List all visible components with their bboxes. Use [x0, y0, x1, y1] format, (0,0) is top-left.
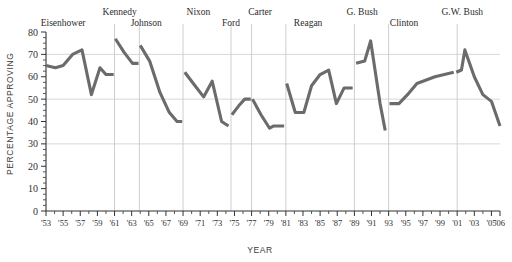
x-tick-label-67: '67 — [161, 218, 171, 228]
y-axis-title: PERCENTAGE APPROVING — [5, 53, 15, 175]
x-tick-label-53: '53 — [41, 218, 51, 228]
x-tick-label-69: '69 — [178, 218, 188, 228]
admin-label-johnson: Johnson — [131, 18, 162, 28]
x-tick-label-85: '85 — [315, 218, 325, 228]
y-tick-label-40: 40 — [28, 116, 38, 127]
chart-canvas: 01020304050607080 '53'55'57'59'61'63'65'… — [0, 0, 512, 262]
y-tick-label-30: 30 — [28, 138, 38, 149]
series-line-ford — [232, 99, 251, 115]
admin-label-kennedy: Kennedy — [103, 7, 138, 17]
series-line-eisenhower — [46, 50, 114, 95]
y-tick-label-10: 10 — [28, 183, 38, 194]
y-tick-label-60: 60 — [28, 71, 38, 82]
x-tick-label-89: '89 — [349, 218, 359, 228]
x-tick-label-87: '87 — [332, 218, 342, 228]
admin-label-clinton: Clinton — [390, 18, 419, 28]
admin-label-reagan: Reagan — [294, 18, 323, 28]
x-tick-label-03: '03 — [469, 218, 479, 228]
x-tick-label-57: '57 — [75, 218, 85, 228]
series-line-carter — [252, 99, 284, 128]
series-line-johnson — [140, 45, 182, 121]
x-tick-label-77: '77 — [247, 218, 257, 228]
x-tick-label-55: '55 — [58, 218, 68, 228]
x-tick-label-65: '65 — [144, 218, 154, 228]
x-tick-label-59: '59 — [92, 218, 102, 228]
y-tick-labels-layer: 01020304050607080 — [28, 27, 46, 217]
x-tick-label-73: '73 — [212, 218, 222, 228]
x-tick-label-93: 93 — [384, 218, 393, 228]
x-tick-label-81: '81 — [281, 218, 291, 228]
admin-label-ford: Ford — [222, 18, 240, 28]
y-tick-label-0: 0 — [33, 206, 38, 217]
administration-labels-layer: EisenhowerKennedyJohnsonNixonFordCarterR… — [41, 7, 484, 28]
y-tick-label-70: 70 — [28, 49, 38, 60]
x-tick-label-97: '97 — [418, 218, 428, 228]
y-tick-label-20: 20 — [28, 161, 38, 172]
admin-label-g-w-bush: G.W. Bush — [441, 7, 483, 17]
x-tick-label-71: '71 — [195, 218, 205, 228]
y-tick-label-80: 80 — [28, 27, 38, 38]
admin-label-eisenhower: Eisenhower — [41, 18, 87, 28]
x-tick-label-06: '06 — [495, 218, 505, 228]
y-tick-label-50: 50 — [28, 94, 38, 105]
presidential-approval-chart: 01020304050607080 '53'55'57'59'61'63'65'… — [0, 0, 512, 262]
x-tick-label-61: '61 — [110, 218, 120, 228]
x-tick-label-75: '75 — [229, 218, 239, 228]
admin-label-g-bush: G. Bush — [347, 7, 378, 17]
x-tick-label-01: '01 — [452, 218, 462, 228]
series-line-g-w-bush — [456, 50, 500, 126]
admin-label-carter: Carter — [248, 7, 273, 17]
x-tick-label-95: '95 — [401, 218, 411, 228]
x-tick-label-63: '63 — [127, 218, 137, 228]
x-axis-title: YEAR — [247, 245, 273, 255]
x-tick-label-99: '99 — [435, 218, 445, 228]
x-tick-label-83: '83 — [298, 218, 308, 228]
series-line-reagan — [287, 70, 353, 113]
series-line-kennedy — [115, 39, 138, 64]
x-tick-label-91: '91 — [366, 218, 376, 228]
admin-label-nixon: Nixon — [187, 7, 211, 17]
x-tick-label-79: '79 — [264, 218, 274, 228]
term-separators-layer — [115, 24, 458, 211]
x-tick-labels-layer: '53'55'57'59'61'63'65'67'69'71'73'75'77'… — [41, 211, 505, 228]
